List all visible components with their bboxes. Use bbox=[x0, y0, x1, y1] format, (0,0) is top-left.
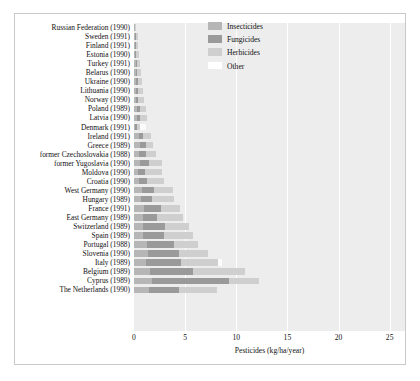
category-label: France (1991) bbox=[15, 204, 134, 213]
category-label: Estonia (1990) bbox=[15, 50, 134, 59]
category-label: Spain (1989) bbox=[15, 231, 134, 240]
bar-segment-herbicides bbox=[136, 42, 138, 48]
legend-swatch-insecticides bbox=[208, 22, 222, 30]
stacked-bar bbox=[134, 51, 139, 57]
bar-row bbox=[134, 141, 405, 150]
category-label: Denmark (1991) bbox=[15, 123, 134, 132]
category-label: The Netherlands (1990) bbox=[15, 285, 134, 294]
bar-segment-fungicides bbox=[147, 241, 174, 247]
legend-label: Insecticides bbox=[227, 22, 263, 31]
category-axis-labels: Russian Federation (1990)Sweden (1991)Fi… bbox=[15, 23, 134, 294]
category-label: Russian Federation (1990) bbox=[15, 23, 134, 32]
legend-item-fungicides[interactable]: Fungicides bbox=[208, 32, 294, 45]
bar-segment-insecticides bbox=[134, 214, 143, 220]
legend-swatch-other bbox=[208, 62, 222, 70]
bar-row bbox=[134, 195, 405, 204]
legend-label: Fungicides bbox=[227, 35, 260, 44]
x-tick-label: 25 bbox=[386, 333, 394, 342]
stacked-bar bbox=[134, 250, 208, 256]
bar-segment-herbicides bbox=[138, 78, 142, 84]
category-label: Slovenia (1990) bbox=[15, 249, 134, 258]
bar-segment-herbicides bbox=[146, 142, 154, 148]
stacked-bar bbox=[134, 106, 146, 112]
stacked-bar bbox=[134, 196, 174, 202]
bar-segment-herbicides bbox=[136, 51, 139, 57]
legend-item-herbicides[interactable]: Herbicides bbox=[208, 45, 294, 58]
legend-label: Other bbox=[227, 61, 244, 70]
bar-segment-herbicides bbox=[138, 97, 144, 103]
bar-segment-fungicides bbox=[152, 278, 229, 284]
bar-segment-fungicides bbox=[143, 223, 164, 229]
stacked-bar bbox=[134, 287, 217, 293]
bar-segment-herbicides bbox=[229, 278, 259, 284]
bar-segment-fungicides bbox=[150, 268, 193, 274]
category-label: Ukraine (1990) bbox=[15, 77, 134, 86]
bar-segment-herbicides bbox=[179, 287, 217, 293]
bar-row bbox=[134, 213, 405, 222]
bar-segment-fungicides bbox=[143, 214, 157, 220]
category-label: Turkey (1991) bbox=[15, 59, 134, 68]
stacked-bar bbox=[134, 69, 141, 75]
bar-row bbox=[134, 177, 405, 186]
bar-segment-herbicides bbox=[179, 250, 208, 256]
category-label: Switzerland (1989) bbox=[15, 222, 134, 231]
stacked-bar bbox=[134, 232, 193, 238]
x-tick-label: 10 bbox=[232, 333, 240, 342]
category-label: Latvia (1990) bbox=[15, 113, 134, 122]
legend-item-other[interactable]: Other bbox=[208, 59, 294, 72]
category-label: former Czechoslovakia (1988) bbox=[15, 150, 134, 159]
bar-segment-fungicides bbox=[146, 259, 181, 265]
category-label: Greece (1989) bbox=[15, 141, 134, 150]
stacked-bar bbox=[134, 97, 144, 103]
category-label: Lithuania (1990) bbox=[15, 86, 134, 95]
stacked-bar bbox=[134, 142, 153, 148]
bar-row bbox=[134, 240, 405, 249]
bar-row bbox=[134, 150, 405, 159]
category-label: Sweden (1991) bbox=[15, 32, 134, 41]
category-label: West Germany (1990) bbox=[15, 186, 134, 195]
x-axis-label: Pesticides (kg/ha/year) bbox=[134, 346, 405, 355]
bar-segment-herbicides bbox=[193, 268, 245, 274]
bar-row bbox=[134, 267, 405, 276]
category-label: Poland (1989) bbox=[15, 104, 134, 113]
bar-segment-insecticides bbox=[134, 241, 147, 247]
bar-row bbox=[134, 77, 405, 86]
bar-segment-insecticides bbox=[134, 259, 146, 265]
stacked-bar bbox=[134, 178, 164, 184]
bar-segment-insecticides bbox=[134, 232, 143, 238]
category-label: Italy (1989) bbox=[15, 258, 134, 267]
legend-item-insecticides[interactable]: Insecticides bbox=[208, 19, 294, 32]
bar-segment-insecticides bbox=[134, 268, 150, 274]
bar-row bbox=[134, 186, 405, 195]
bar-segment-fungicides bbox=[148, 250, 179, 256]
bar-segment-fungicides bbox=[142, 187, 154, 193]
bar-segment-herbicides bbox=[164, 232, 194, 238]
bar-segment-other bbox=[140, 124, 146, 130]
bar-segment-herbicides bbox=[165, 223, 190, 229]
category-label: Belgium (1989) bbox=[15, 267, 134, 276]
x-tick-label: 5 bbox=[183, 333, 187, 342]
bar-segment-herbicides bbox=[161, 205, 180, 211]
bar-row bbox=[134, 285, 405, 294]
bar-segment-insecticides bbox=[134, 250, 148, 256]
stacked-bar bbox=[134, 151, 156, 157]
stacked-bar bbox=[134, 278, 259, 284]
stacked-bar bbox=[134, 241, 198, 247]
bar-segment-fungicides bbox=[143, 232, 163, 238]
stacked-bar bbox=[134, 42, 138, 48]
category-label: East Germany (1989) bbox=[15, 213, 134, 222]
bar-segment-herbicides bbox=[147, 178, 164, 184]
legend-label: Herbicides bbox=[227, 48, 260, 57]
bar-row bbox=[134, 123, 405, 132]
stacked-bar bbox=[134, 214, 183, 220]
stacked-bar bbox=[134, 33, 138, 39]
bar-row bbox=[134, 231, 405, 240]
bar-segment-herbicides bbox=[146, 151, 156, 157]
bar-segment-fungicides bbox=[139, 151, 146, 157]
bar-segment-herbicides bbox=[174, 241, 199, 247]
stacked-bar bbox=[134, 160, 162, 166]
bar-segment-herbicides bbox=[181, 259, 218, 265]
x-axis: 0510152025 Pesticides (kg/ha/year) bbox=[134, 331, 405, 365]
bar-segment-fungicides bbox=[140, 160, 149, 166]
bar-segment-herbicides bbox=[152, 196, 173, 202]
